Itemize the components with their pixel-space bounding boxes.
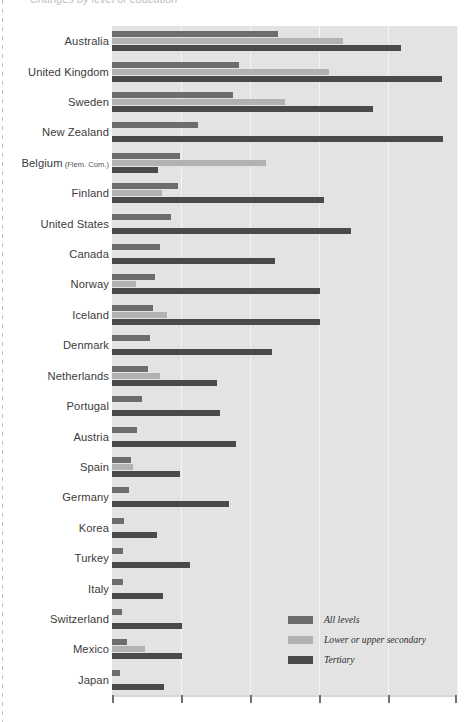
chart-row: New Zealand [0, 117, 476, 147]
bar-tertiary [112, 136, 443, 142]
bar-group [112, 178, 457, 208]
category-label: Sweden [68, 96, 109, 108]
x-axis-tick [112, 695, 114, 703]
bar-all-levels [112, 274, 155, 280]
chart-row: Iceland [0, 300, 476, 330]
legend-swatch-lower-upper-secondary [288, 636, 313, 644]
category-label: Belgium (Flem. Com.) [21, 157, 109, 169]
chart-legend: All levelsLower or upper secondaryTertia… [288, 614, 426, 674]
chart-row: Germany [0, 482, 476, 512]
bar-all-levels [112, 305, 153, 311]
chart-row: Austria [0, 421, 476, 451]
bar-tertiary [112, 684, 164, 690]
legend-swatch-tertiary [288, 656, 313, 664]
chart-row: Turkey [0, 543, 476, 573]
category-label: Canada [69, 248, 109, 260]
chart-row: Portugal [0, 391, 476, 421]
bar-group [112, 239, 457, 269]
bar-group [112, 117, 457, 147]
category-label: Japan [78, 674, 109, 686]
chart-row: United States [0, 208, 476, 238]
bar-all-levels [112, 366, 148, 372]
category-label: Korea [79, 522, 109, 534]
bar-group [112, 513, 457, 543]
chart-row: Canada [0, 239, 476, 269]
chart-rows: AustraliaUnited KingdomSwedenNew Zealand… [0, 26, 476, 695]
chart-row: Norway [0, 269, 476, 299]
legend-label: Tertiary [324, 654, 355, 665]
bar-group [112, 26, 457, 56]
x-axis-tick [455, 695, 457, 703]
bar-tertiary [112, 197, 324, 203]
bar-all-levels [112, 335, 150, 341]
bar-tertiary [112, 410, 220, 416]
bar-lower-or-upper-secondary [112, 38, 343, 44]
x-axis-tick [388, 695, 390, 703]
bar-all-levels [112, 396, 142, 402]
category-label: Germany [62, 491, 109, 503]
chart-row: Spain [0, 452, 476, 482]
category-label: Mexico [73, 643, 109, 655]
chart-row: Sweden [0, 87, 476, 117]
bar-tertiary [112, 228, 351, 234]
bar-group [112, 56, 457, 86]
chart-row: Denmark [0, 330, 476, 360]
bar-group [112, 361, 457, 391]
bar-all-levels [112, 214, 171, 220]
x-axis-line [112, 695, 457, 697]
bar-tertiary [112, 106, 373, 112]
bar-lower-or-upper-secondary [112, 99, 285, 105]
bar-group [112, 330, 457, 360]
bar-group [112, 300, 457, 330]
bar-lower-or-upper-secondary [112, 312, 167, 318]
bar-group [112, 87, 457, 117]
chart-row: Italy [0, 573, 476, 603]
bar-all-levels [112, 244, 160, 250]
bar-tertiary [112, 653, 182, 659]
category-label: Spain [80, 461, 109, 473]
bar-group [112, 391, 457, 421]
chart-row: Netherlands [0, 361, 476, 391]
bar-all-levels [112, 670, 120, 676]
chart-row: Finland [0, 178, 476, 208]
legend-label: Lower or upper secondary [324, 634, 426, 645]
bar-lower-or-upper-secondary [112, 373, 160, 379]
bar-tertiary [112, 593, 163, 599]
category-label: United States [41, 218, 109, 230]
category-label: Finland [72, 187, 109, 199]
bar-all-levels [112, 62, 239, 68]
education-change-bar-chart: AustraliaUnited KingdomSwedenNew Zealand… [0, 0, 476, 722]
bar-all-levels [112, 153, 180, 159]
bar-tertiary [112, 380, 217, 386]
bar-all-levels [112, 548, 123, 554]
bar-lower-or-upper-secondary [112, 69, 329, 75]
category-label: Austria [73, 431, 109, 443]
chart-row: Belgium (Flem. Com.) [0, 148, 476, 178]
bar-group [112, 573, 457, 603]
legend-swatch-all-levels [288, 616, 313, 624]
bar-tertiary [112, 501, 229, 507]
bar-all-levels [112, 183, 178, 189]
bar-tertiary [112, 471, 180, 477]
bar-all-levels [112, 92, 233, 98]
bar-group [112, 148, 457, 178]
bar-tertiary [112, 349, 272, 355]
bar-group [112, 543, 457, 573]
bar-all-levels [112, 427, 137, 433]
bar-lower-or-upper-secondary [112, 646, 145, 652]
x-axis-tick [181, 695, 183, 703]
category-label: Norway [70, 278, 109, 290]
bar-all-levels [112, 487, 129, 493]
bar-tertiary [112, 288, 320, 294]
bar-tertiary [112, 76, 442, 82]
category-label: Portugal [67, 400, 109, 412]
bar-tertiary [112, 319, 320, 325]
legend-item: Tertiary [288, 654, 426, 665]
category-label: Switzerland [50, 613, 109, 625]
bar-all-levels [112, 639, 127, 645]
bar-all-levels [112, 31, 278, 37]
bar-lower-or-upper-secondary [112, 464, 133, 470]
x-axis [112, 695, 457, 705]
category-label: New Zealand [42, 126, 109, 138]
bar-tertiary [112, 45, 401, 51]
